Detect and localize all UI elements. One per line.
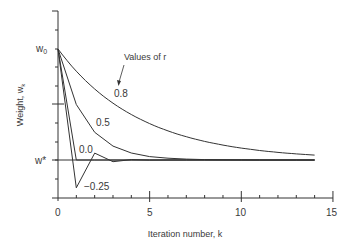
x-axis-label: Iteration number, k [148,229,223,239]
annotation-values-of-r: Values of r [124,52,166,62]
y-axis-label: Weight, wk [15,83,26,126]
x-tick-10: 10 [235,207,247,218]
curve-r-0.0 [58,49,315,160]
curve-label-neg0.25: −0.25 [84,181,110,192]
axes [52,11,333,202]
annotation-arrow-icon [117,65,124,86]
x-tick-0: 0 [55,207,61,218]
curve-label-0.5: 0.5 [96,117,110,128]
curve-r-0.5 [58,49,315,160]
x-tick-15: 15 [326,207,338,218]
y-tick-w0: w0 [35,43,47,55]
curve-r-0.8 [58,49,315,155]
convergence-chart: w0 w* 0 5 10 15 Iteration number, k Weig… [0,0,352,246]
y-tick-wstar: w* [34,155,46,166]
curve-label-0.0: 0.0 [79,144,93,155]
x-tick-5: 5 [147,207,153,218]
curve-label-0.8: 0.8 [114,88,128,99]
